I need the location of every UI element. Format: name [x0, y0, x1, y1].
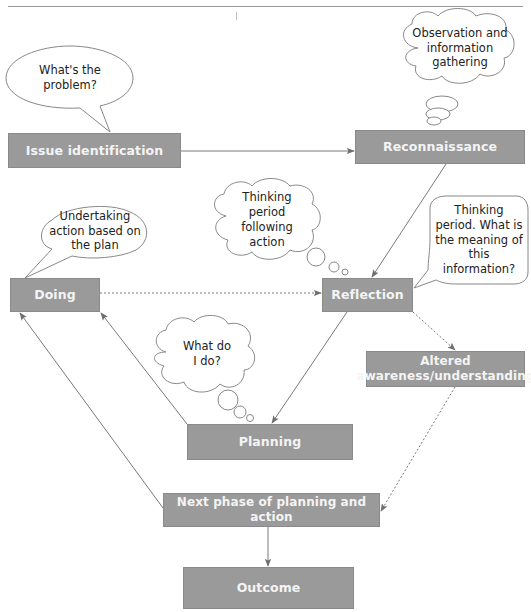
- note-thinking-meaning: Thinking period. What is the meaning of …: [430, 198, 528, 282]
- diagram-canvas: What's the problem? Observation and info…: [0, 0, 531, 612]
- note-undertaking-action: Undertaking action based on the plan: [40, 206, 150, 256]
- note-what-do-i-do: What do I do?: [162, 326, 252, 382]
- box-altered-awareness: Altered awareness/understanding: [366, 351, 525, 387]
- box-doing: Doing: [10, 278, 100, 312]
- box-planning: Planning: [187, 424, 353, 460]
- note-whats-the-problem: What's the problem?: [20, 56, 120, 100]
- box-next-phase: Next phase of planning and action: [163, 493, 380, 527]
- box-issue-identification: Issue identification: [8, 133, 181, 168]
- note-thinking-following-action: Thinking period following action: [222, 186, 312, 254]
- note-observation: Observation and information gathering: [400, 18, 520, 78]
- box-reflection: Reflection: [322, 278, 413, 312]
- box-reconnaissance: Reconnaissance: [355, 130, 525, 164]
- box-outcome: Outcome: [183, 567, 354, 609]
